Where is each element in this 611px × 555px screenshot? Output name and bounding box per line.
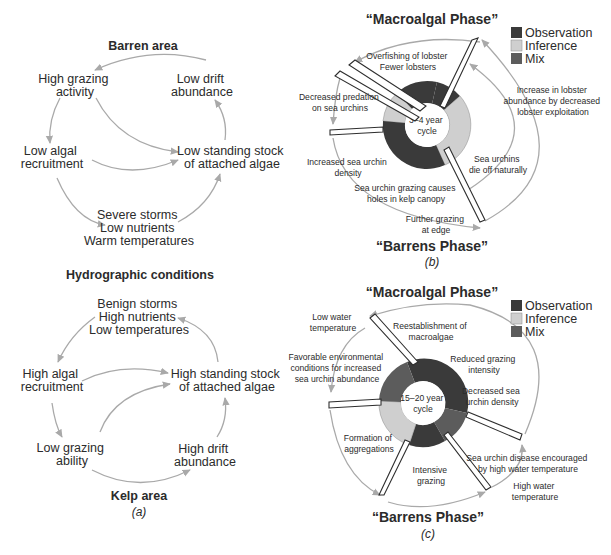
figure-canvas: Barren area High grazing activity Low dr… (0, 0, 611, 555)
high-standing-stock-label: High standing stock of attached algae (171, 367, 284, 394)
panel-c-diagram: “Macroalgal Phase” 15–20 year cycle Low … (289, 284, 593, 541)
decreased-density-label: Decreased sea urchin density (462, 386, 522, 407)
die-off-label: Sea urchins die off naturally (469, 154, 528, 175)
lobster-increase-label: Increase in lobster abundance by decreas… (504, 85, 603, 117)
legend-label-mix: Mix (525, 52, 545, 66)
panel-b-caption: (b) (425, 255, 440, 269)
arrow-grazing-to-recruitment (50, 98, 60, 143)
arrow-recruitment-to-grazing (52, 403, 62, 437)
favorable-conditions-label: Favorable environmental conditions for i… (289, 352, 386, 384)
legend-label-inference: Inference (525, 312, 577, 326)
decreased-predation-label: Decreased predation on sea urchins (299, 92, 381, 113)
low-grazing-ability-label: Low grazing ability (37, 441, 108, 468)
aggregations-label: Formation of aggregations (344, 433, 395, 454)
panel-b-macroalgal-phase-title: “Macroalgal Phase” (366, 11, 498, 27)
grazing-holes-label: Sea urchin grazing causes holes in kelp … (354, 183, 458, 204)
arrow-recruitment-to-stock (82, 369, 168, 381)
kelp-area-heading: Kelp area (111, 489, 168, 503)
legend-label-inference: Inference (525, 39, 577, 53)
reduced-grazing-label: Reduced grazing intensity (450, 354, 517, 375)
high-algal-recruitment-label: High algal recruitment (21, 367, 84, 394)
disease-label: Sea urchin disease encouraged by high wa… (466, 453, 589, 474)
reestablishment-label: Reestablishment of macroalgae (393, 321, 469, 342)
panel-b-legend: Observation Inference Mix (511, 26, 592, 66)
arrow-stock-to-drift (215, 100, 226, 140)
panel-c-macroalgal-phase-title: “Macroalgal Phase” (366, 284, 498, 300)
panel-a-caption: (a) (132, 505, 147, 519)
separator-c-2 (329, 399, 381, 408)
barren-conditions-label: Severe storms Low nutrients Warm tempera… (84, 208, 194, 248)
hydrographic-conditions-heading: Hydrographic conditions (66, 268, 214, 282)
panel-b-diagram: “Macroalgal Phase” 3–4 year cycle Over (299, 11, 603, 269)
arc-c-intensive (388, 492, 485, 507)
arc-b-lobster-outer (482, 40, 539, 221)
increased-density-label: Increased sea urchin density (307, 157, 389, 178)
low-algal-recruitment-label: Low algal recruitment (21, 144, 84, 171)
legend-label-observation: Observation (525, 299, 592, 313)
arrow-conditions-to-stock (178, 174, 220, 222)
arrow-drift-to-grazing (95, 54, 206, 70)
overfishing-label: Overfishing of lobster Fewer lobsters (366, 51, 450, 72)
panel-a-barren-diagram: Barren area High grazing activity Low dr… (21, 39, 287, 248)
panel-c-barrens-phase-title: “Barrens Phase” (372, 509, 484, 525)
separator-c-5 (466, 412, 522, 440)
legend-swatch-inference (511, 313, 522, 324)
arrow-grazing-to-stock (100, 384, 170, 432)
low-water-temperature-label: Low water temperature (310, 312, 357, 333)
legend-swatch-observation (511, 27, 522, 38)
barren-area-heading: Barren area (108, 39, 179, 53)
high-water-temperature-label: High water temperature (512, 481, 559, 502)
arrow-grazing-to-stock (96, 98, 178, 152)
intensive-grazing-label: Intensive grazing (413, 465, 450, 486)
further-grazing-label: Further grazing at edge (406, 214, 467, 235)
arrow-drift-to-stock (217, 398, 226, 437)
panel-b-barrens-phase-title: “Barrens Phase” (376, 238, 488, 254)
kelp-conditions-label: Benign storms High nutrients Low tempera… (89, 297, 189, 337)
panel-c-caption: (c) (421, 527, 435, 541)
arrow-recruitment-to-stock (92, 160, 178, 170)
legend-swatch-observation (511, 300, 522, 311)
legend-swatch-mix (511, 326, 522, 337)
legend-label-observation: Observation (525, 26, 592, 40)
high-drift-abundance-label: High drift abundance (174, 442, 236, 469)
low-standing-stock-label: Low standing stock of attached algae (177, 144, 287, 171)
panel-a-kelp-diagram: Benign storms High nutrients Low tempera… (21, 297, 284, 519)
low-drift-abundance-label: Low drift abundance (171, 72, 233, 99)
high-grazing-activity-label: High grazing activity (38, 72, 112, 99)
arrow-grazing-to-drift (92, 470, 190, 483)
legend-label-mix: Mix (525, 325, 545, 339)
legend-swatch-mix (511, 53, 522, 64)
separator-b-3 (330, 127, 383, 135)
legend-swatch-inference (511, 40, 522, 51)
